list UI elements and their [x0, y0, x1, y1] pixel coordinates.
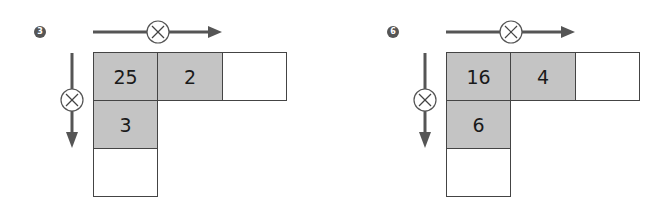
horizontal-multiply-icon: [500, 21, 522, 43]
grid-cell-top-right-answer[interactable]: [222, 52, 287, 101]
grid-cell-top-right-answer[interactable]: [575, 52, 640, 101]
grid-cell-middle-left: 3: [93, 100, 158, 149]
problem-6-panel: 6 16 4 6: [353, 0, 668, 211]
grid-cell-top-middle: 2: [157, 52, 223, 101]
horizontal-multiply-icon: [147, 21, 169, 43]
grid-cell-bottom-left-answer[interactable]: [446, 148, 511, 197]
grid-cell-top-left: 25: [93, 52, 158, 101]
grid-cell-bottom-left-answer[interactable]: [93, 148, 158, 197]
grid-cell-top-left: 16: [446, 52, 511, 101]
vertical-multiply-icon: [414, 89, 436, 111]
grid-cell-middle-left: 6: [446, 100, 511, 149]
vertical-multiply-icon: [61, 89, 83, 111]
grid-cell-top-middle: 4: [510, 52, 576, 101]
problem-3-panel: 3 25 2 3: [0, 0, 334, 211]
arrows-diagram: [0, 0, 334, 211]
